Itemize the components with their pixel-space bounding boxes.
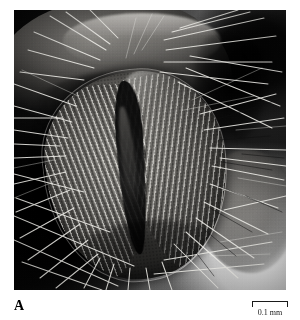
scale-bar-bracket	[252, 301, 288, 307]
bristle-group-bright	[14, 10, 286, 290]
scale-bar-label: 0.1 mm	[250, 308, 290, 318]
setae-bristles-layer	[14, 10, 286, 290]
scale-bar: 0.1 mm	[250, 301, 290, 318]
sem-micrograph	[14, 10, 286, 290]
figure-panel: A 0.1 mm	[0, 0, 300, 320]
panel-label: A	[14, 298, 24, 314]
bristle-group-fine	[14, 14, 286, 256]
